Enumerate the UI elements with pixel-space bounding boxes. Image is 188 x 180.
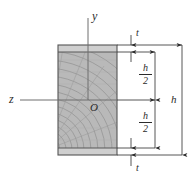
- lower-half-numerator: h: [139, 111, 152, 122]
- upper-half-denominator: 2: [139, 76, 152, 87]
- beam-cross-section-figure: y z O t t h 2 h 2 h: [0, 0, 188, 180]
- lower-half-height-label: h 2: [139, 111, 152, 134]
- total-height-label: h: [171, 94, 177, 105]
- figure-canvas: [0, 0, 188, 180]
- y-axis-label: y: [92, 10, 97, 22]
- upper-half-numerator: h: [139, 63, 152, 74]
- upper-half-height-label: h 2: [139, 63, 152, 86]
- lower-half-denominator: 2: [139, 124, 152, 135]
- z-axis-label: z: [9, 93, 14, 105]
- top-thickness-label: t: [136, 28, 139, 38]
- origin-label: O: [90, 102, 98, 113]
- bottom-flange-strip: [58, 148, 117, 155]
- bottom-thickness-label: t: [136, 163, 139, 173]
